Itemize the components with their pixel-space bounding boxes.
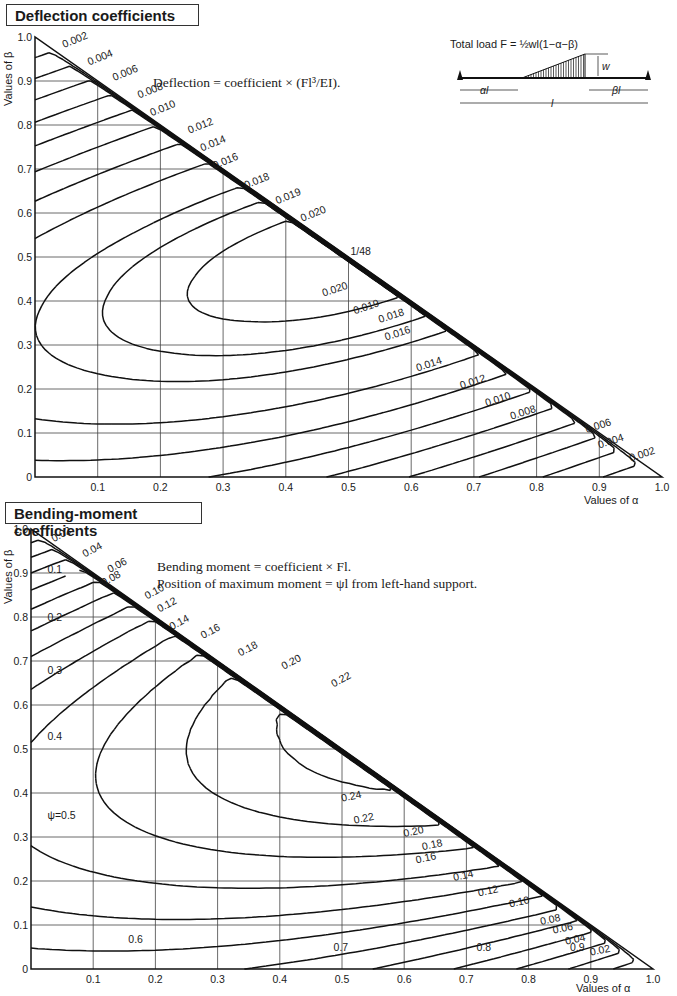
psi-label: 0.6 xyxy=(128,933,143,945)
psi-label: 0.2 xyxy=(47,611,62,623)
y-tick: 0.8 xyxy=(13,611,28,623)
coefficient-contour xyxy=(31,560,605,969)
psi-label: 0.8 xyxy=(477,941,492,953)
contour-label: 0.020 xyxy=(320,279,349,299)
contour-label: 0.010 xyxy=(483,389,512,409)
y-tick: 0 xyxy=(22,963,28,975)
moment-label: 0.18 xyxy=(421,836,444,852)
moment-label: 0.14 xyxy=(167,612,191,632)
y-tick: 0.3 xyxy=(13,831,28,843)
x-tick: 0.9 xyxy=(592,481,607,493)
contour-label: 0.002 xyxy=(628,444,657,464)
moment-label: 0.14 xyxy=(452,867,475,883)
y-tick: 1.0 xyxy=(17,31,32,43)
coefficient-contour xyxy=(35,53,635,477)
coefficient-contour xyxy=(31,550,619,970)
moment-label: 0.22 xyxy=(352,810,375,826)
moment-label: 0.18 xyxy=(236,638,260,658)
contour-label: 0.002 xyxy=(60,29,89,50)
x-tick: 0.4 xyxy=(272,973,287,985)
coefficient-contour xyxy=(35,145,506,461)
x-tick: 0.5 xyxy=(341,481,356,493)
contour-label: 0.010 xyxy=(148,97,177,118)
y-tick: 0.6 xyxy=(17,207,32,219)
svg-text:w: w xyxy=(602,60,611,72)
coefficient-contour xyxy=(31,540,634,969)
contour-label: 0.004 xyxy=(85,46,114,67)
x-tick: 0.1 xyxy=(90,481,105,493)
psi-label: 0.1 xyxy=(47,563,62,575)
psi-label: ψ=0.5 xyxy=(47,809,75,821)
moment-label: 0.10 xyxy=(142,581,166,601)
svg-text:βl: βl xyxy=(611,84,621,96)
x-tick: 0.1 xyxy=(86,973,101,985)
y-tick: 0.1 xyxy=(13,919,28,931)
y-tick: 0.7 xyxy=(13,655,28,667)
contour-label: 0.020 xyxy=(299,203,328,224)
moment-label: 0.12 xyxy=(477,882,500,898)
x-tick: 1.0 xyxy=(655,481,670,493)
x-tick: 0.2 xyxy=(148,973,163,985)
psi-label: 0.4 xyxy=(47,730,62,742)
moment-label: 0.04 xyxy=(80,539,104,559)
x-tick: 0.8 xyxy=(521,973,536,985)
psi-label: 0.3 xyxy=(47,664,62,676)
x-tick: 1.0 xyxy=(646,973,661,985)
svg-text:αl: αl xyxy=(480,84,489,96)
coefficient-contour xyxy=(31,593,557,969)
contour-label: 0.018 xyxy=(377,305,406,325)
y-tick: 0.1 xyxy=(17,427,32,439)
moment-label: 0.16 xyxy=(415,849,438,865)
bending-chart: 0.10.20.30.40.50.60.70.80.91.000.10.20.3… xyxy=(13,523,660,985)
moment-label: 0.02 xyxy=(49,524,73,544)
peak-label: 1/48 xyxy=(351,245,372,257)
y-tick: 0.7 xyxy=(17,163,32,175)
y-tick: 0.2 xyxy=(17,383,32,395)
x-tick: 0.3 xyxy=(210,973,225,985)
contour-label: 0.014 xyxy=(198,132,227,153)
coefficient-contour xyxy=(31,570,591,969)
moment-label: 0.22 xyxy=(329,669,353,689)
psi-label: 0.7 xyxy=(334,941,349,953)
y-tick: 0.8 xyxy=(17,119,32,131)
y-tick: 0.6 xyxy=(13,699,28,711)
contour-label: 0.016 xyxy=(383,323,412,343)
y-tick: 1.0 xyxy=(13,523,28,535)
x-tick: 0.8 xyxy=(529,481,544,493)
y-tick: 0.4 xyxy=(17,295,32,307)
contour-label: 0.016 xyxy=(211,150,240,171)
coefficient-contour xyxy=(35,96,575,477)
y-tick: 0.9 xyxy=(17,75,32,87)
moment-label: 0.16 xyxy=(198,621,222,641)
contour-label: 0.008 xyxy=(136,79,165,100)
x-tick: 0.6 xyxy=(404,481,419,493)
x-tick: 0.6 xyxy=(397,973,412,985)
moment-label: 0.02 xyxy=(589,942,612,958)
y-tick: 0.5 xyxy=(17,251,32,263)
x-tick: 0.7 xyxy=(467,481,482,493)
y-tick: 0.9 xyxy=(13,567,28,579)
y-tick: 0.5 xyxy=(13,743,28,755)
contour-label: 0.012 xyxy=(186,115,215,136)
coefficient-contour xyxy=(276,714,390,790)
psi-label: 0.9 xyxy=(570,941,585,953)
x-tick: 0.9 xyxy=(583,973,598,985)
contour-label: 0.006 xyxy=(110,62,139,83)
load-diagram: wαlβll xyxy=(457,54,651,109)
contour-label: 0.018 xyxy=(242,170,271,191)
y-tick: 0 xyxy=(26,471,32,483)
x-tick: 0.5 xyxy=(335,973,350,985)
moment-label: 0.12 xyxy=(155,594,179,614)
charts-canvas: 0.10.20.30.40.50.60.70.80.91.000.10.20.3… xyxy=(0,0,677,996)
moment-label: 0.20 xyxy=(279,651,303,671)
y-tick: 0.2 xyxy=(13,875,28,887)
x-tick: 0.7 xyxy=(459,973,474,985)
x-tick: 0.3 xyxy=(216,481,231,493)
y-tick: 0.3 xyxy=(17,339,32,351)
x-tick: 0.4 xyxy=(278,481,293,493)
coefficient-contour xyxy=(186,678,438,826)
contour-label: 0.019 xyxy=(274,185,303,206)
contour-label: 0.012 xyxy=(458,371,487,391)
deflection-chart: 0.10.20.30.40.50.60.70.80.91.000.10.20.3… xyxy=(17,29,669,493)
moment-label: 0.20 xyxy=(402,823,425,839)
